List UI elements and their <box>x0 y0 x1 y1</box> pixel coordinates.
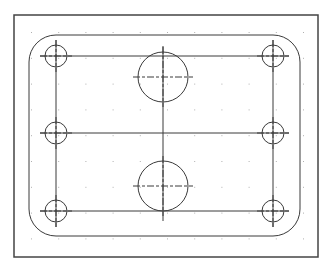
grid-dot <box>85 58 86 59</box>
grid-dot <box>31 58 32 59</box>
grid-dot <box>113 161 114 162</box>
grid-dot <box>58 84 59 85</box>
grid-dot <box>221 161 222 162</box>
grid-dot <box>113 109 114 110</box>
grid-dot <box>31 32 32 33</box>
grid-dot <box>140 84 141 85</box>
construction-lines <box>40 40 289 227</box>
grid-dot <box>58 58 59 59</box>
grid-dot <box>85 213 86 214</box>
grid-dot <box>303 161 304 162</box>
grid-dot <box>58 109 59 110</box>
grid-dot <box>113 58 114 59</box>
grid-dot <box>167 187 168 188</box>
grid-dot <box>249 187 250 188</box>
grid-dot <box>249 161 250 162</box>
grid-dot <box>58 161 59 162</box>
grid-dot <box>303 213 304 214</box>
grid-dot <box>31 238 32 239</box>
grid-dot <box>140 213 141 214</box>
grid-dot <box>85 32 86 33</box>
grid-dot <box>31 187 32 188</box>
grid-dot <box>31 161 32 162</box>
grid-dot <box>194 32 195 33</box>
grid-dot <box>276 84 277 85</box>
grid-dot <box>58 135 59 136</box>
grid-dot <box>140 135 141 136</box>
grid-dot <box>194 84 195 85</box>
grid-dot <box>167 135 168 136</box>
grid-dot <box>221 58 222 59</box>
grid-dot <box>303 187 304 188</box>
grid-dot <box>249 213 250 214</box>
grid-dot <box>85 161 86 162</box>
grid-dot <box>194 58 195 59</box>
grid-dot <box>113 135 114 136</box>
grid-dot <box>194 161 195 162</box>
grid-dot <box>221 84 222 85</box>
grid-dot <box>140 238 141 239</box>
grid-dot <box>276 135 277 136</box>
grid-dot <box>113 238 114 239</box>
grid-dot <box>221 238 222 239</box>
grid-dot <box>249 109 250 110</box>
plate-outline <box>29 35 300 236</box>
grid-dot <box>194 238 195 239</box>
grid-dot <box>194 109 195 110</box>
grid-dot <box>276 187 277 188</box>
grid-dot <box>194 135 195 136</box>
grid-dot <box>221 213 222 214</box>
drawing-frame <box>14 15 318 257</box>
grid-dot <box>140 161 141 162</box>
grid-dot <box>303 109 304 110</box>
grid-dot <box>58 32 59 33</box>
grid-dot <box>303 238 304 239</box>
grid-dot <box>113 84 114 85</box>
grid-dot <box>167 213 168 214</box>
grid-dot <box>58 238 59 239</box>
grid-dot <box>167 32 168 33</box>
grid-dot <box>221 32 222 33</box>
grid-dot <box>85 135 86 136</box>
grid-dot <box>31 109 32 110</box>
grid-dot <box>58 213 59 214</box>
grid-dot <box>249 135 250 136</box>
grid-dot <box>113 213 114 214</box>
grid-dot <box>303 135 304 136</box>
grid-dot <box>85 238 86 239</box>
grid-dot <box>85 187 86 188</box>
grid-dot <box>194 187 195 188</box>
grid-dot <box>167 109 168 110</box>
grid-dot <box>140 32 141 33</box>
grid-dot <box>221 135 222 136</box>
grid-dot <box>85 84 86 85</box>
grid-dot <box>276 58 277 59</box>
grid-dot <box>276 161 277 162</box>
cad-drawing-canvas <box>0 0 332 266</box>
grid-dots <box>31 32 304 239</box>
grid-dot <box>303 58 304 59</box>
grid-dot <box>140 109 141 110</box>
grid-dot <box>249 84 250 85</box>
grid-dot <box>113 32 114 33</box>
grid-dot <box>276 238 277 239</box>
grid-dot <box>276 109 277 110</box>
grid-dot <box>276 213 277 214</box>
grid-dot <box>113 187 114 188</box>
grid-dot <box>58 187 59 188</box>
grid-dot <box>221 109 222 110</box>
grid-dot <box>140 187 141 188</box>
grid-dot <box>31 213 32 214</box>
grid-dot <box>85 109 86 110</box>
grid-dot <box>167 238 168 239</box>
grid-dot <box>303 84 304 85</box>
grid-dot <box>140 58 141 59</box>
grid-dot <box>167 84 168 85</box>
grid-dot <box>249 58 250 59</box>
grid-dot <box>31 84 32 85</box>
grid-dot <box>31 135 32 136</box>
grid-dot <box>249 238 250 239</box>
grid-dot <box>167 58 168 59</box>
grid-dot <box>303 32 304 33</box>
grid-dot <box>194 213 195 214</box>
